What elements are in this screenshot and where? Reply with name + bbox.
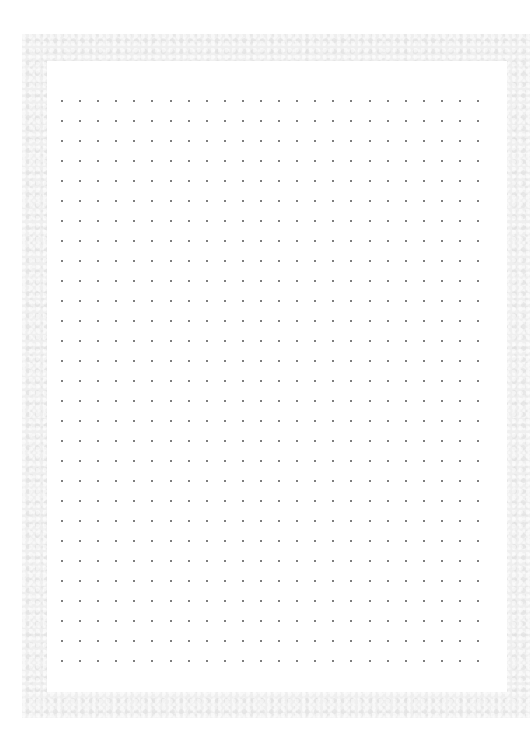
grid-dot (151, 120, 153, 122)
grid-dot (79, 440, 81, 442)
grid-dot (459, 580, 461, 582)
grid-dot (405, 560, 407, 562)
grid-dot (242, 480, 244, 482)
grid-dot (477, 660, 479, 662)
grid-dot (188, 120, 190, 122)
grid-dot (133, 260, 135, 262)
grid-dot (133, 600, 135, 602)
grid-dot (242, 500, 244, 502)
grid-dot (115, 560, 117, 562)
grid-dot (188, 480, 190, 482)
grid-dot (242, 640, 244, 642)
grid-dot (170, 240, 172, 242)
grid-dot (242, 420, 244, 422)
grid-dot (170, 200, 172, 202)
grid-dot (188, 140, 190, 142)
grid-dot (61, 220, 63, 222)
grid-dot (296, 100, 298, 102)
grid-dot (405, 240, 407, 242)
grid-dot (133, 280, 135, 282)
grid-dot (369, 320, 371, 322)
grid-dot (278, 340, 280, 342)
grid-dot (115, 240, 117, 242)
grid-dot (459, 240, 461, 242)
grid-dot (79, 540, 81, 542)
grid-dot (242, 600, 244, 602)
grid-dot (296, 620, 298, 622)
grid-dot (296, 280, 298, 282)
grid-dot (332, 420, 334, 422)
grid-dot (188, 320, 190, 322)
grid-dot (332, 620, 334, 622)
grid-dot (97, 280, 99, 282)
grid-dot (79, 220, 81, 222)
grid-dot (441, 220, 443, 222)
grid-dot (79, 200, 81, 202)
grid-dot (242, 240, 244, 242)
grid-dot (369, 120, 371, 122)
grid-dot (423, 180, 425, 182)
grid-dot (242, 100, 244, 102)
grid-dot (206, 320, 208, 322)
grid-dot (350, 240, 352, 242)
grid-dot (369, 200, 371, 202)
grid-dot (97, 460, 99, 462)
grid-dot (369, 280, 371, 282)
grid-dot (188, 500, 190, 502)
grid-dot (224, 240, 226, 242)
grid-dot (314, 480, 316, 482)
grid-dot (477, 460, 479, 462)
grid-dot (224, 140, 226, 142)
grid-dot (206, 460, 208, 462)
grid-dot (188, 520, 190, 522)
grid-dot (79, 420, 81, 422)
grid-dot (477, 220, 479, 222)
grid-dot (332, 280, 334, 282)
grid-dot (314, 380, 316, 382)
grid-dot (423, 420, 425, 422)
grid-dot (369, 600, 371, 602)
grid-dot (278, 560, 280, 562)
grid-dot (260, 580, 262, 582)
grid-dot (97, 480, 99, 482)
grid-dot (350, 420, 352, 422)
grid-dot (115, 440, 117, 442)
grid-dot (278, 280, 280, 282)
grid-dot (97, 580, 99, 582)
grid-dot (387, 480, 389, 482)
grid-dot (151, 640, 153, 642)
grid-dot (206, 260, 208, 262)
grid-dot (423, 100, 425, 102)
grid-dot (79, 100, 81, 102)
grid-dot (423, 380, 425, 382)
grid-dot (441, 640, 443, 642)
grid-dot (405, 120, 407, 122)
grid-dot (115, 280, 117, 282)
grid-dot (423, 460, 425, 462)
grid-dot (97, 260, 99, 262)
grid-dot (332, 360, 334, 362)
grid-dot (459, 400, 461, 402)
grid-dot (170, 600, 172, 602)
grid-dot (224, 560, 226, 562)
grid-dot (405, 360, 407, 362)
grid-dot (151, 300, 153, 302)
grid-dot (423, 120, 425, 122)
grid-dot (423, 320, 425, 322)
grid-dot (224, 180, 226, 182)
canvas (0, 0, 530, 736)
grid-dot (242, 360, 244, 362)
grid-dot (206, 440, 208, 442)
grid-dot (423, 240, 425, 242)
grid-dot (477, 160, 479, 162)
grid-dot (260, 420, 262, 422)
grid-dot (115, 400, 117, 402)
grid-dot (206, 520, 208, 522)
grid-dot (242, 440, 244, 442)
grid-dot (350, 660, 352, 662)
grid-dot (151, 180, 153, 182)
grid-dot (79, 160, 81, 162)
grid-dot (350, 120, 352, 122)
grid-dot (133, 440, 135, 442)
grid-dot (459, 460, 461, 462)
